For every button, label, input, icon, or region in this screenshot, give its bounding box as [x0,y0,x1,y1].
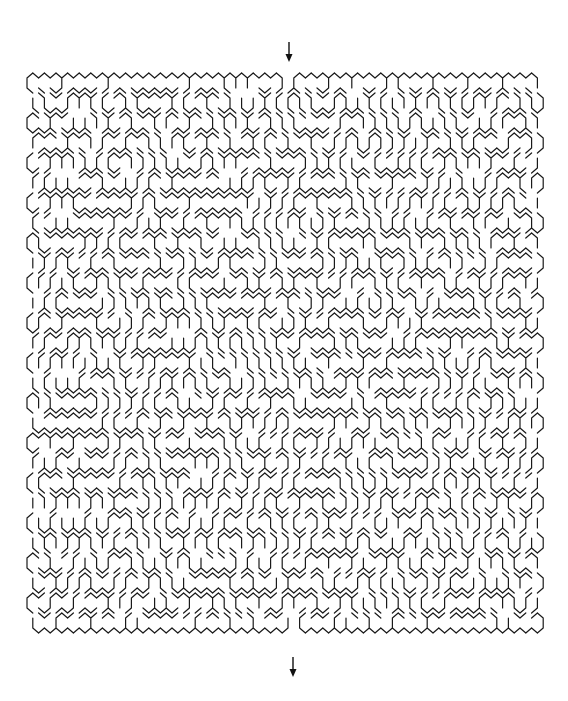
maze-walls [27,73,543,633]
exit-arrow-icon [290,657,297,677]
entrance-arrow-icon [286,42,293,62]
maze-wall-path [27,73,543,633]
maze-board [0,0,568,701]
